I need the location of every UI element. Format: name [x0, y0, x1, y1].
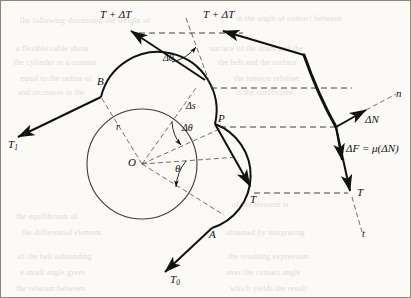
label-delta-s: Δs: [186, 101, 196, 111]
label-delta-theta-center: Δθ: [182, 123, 193, 133]
axis-t-dashed: [352, 197, 362, 232]
freebody-belt-element: [304, 55, 336, 127]
delta-theta-arc-at-center: [172, 122, 181, 145]
label-point-A: A: [209, 229, 216, 240]
radius-to-B: [101, 97, 142, 164]
label-T1: T1: [8, 139, 18, 152]
label-T-plus-dT-left: T + ΔT: [100, 9, 131, 20]
figure-canvas: the following discussion the weight ofin…: [0, 0, 411, 298]
label-theta: θ: [175, 163, 180, 174]
reference-axis-horizontal: [142, 157, 238, 164]
vector-delta-F: [336, 127, 342, 160]
label-axis-t: t: [362, 229, 365, 239]
axis-n-dashed: [366, 94, 396, 110]
dashed-tangent-upper-element: [186, 18, 213, 92]
label-point-P: P: [218, 113, 225, 124]
label-T-freebody: T: [357, 187, 363, 198]
belt-arc-B-to-P: [101, 52, 217, 124]
label-delta-F: ΔF = μ(ΔN): [346, 143, 399, 154]
label-center-O: O: [128, 157, 136, 168]
label-delta-theta-top: Δθ: [163, 53, 174, 63]
label-delta-N: ΔN: [365, 114, 379, 125]
label-point-B: B: [97, 76, 104, 87]
label-T0: T0: [170, 274, 180, 287]
label-radius-r: r: [116, 122, 120, 132]
label-T-plus-dT-right: T + ΔT: [203, 9, 234, 20]
belt-segment-T1: [18, 97, 101, 137]
radius-to-P: [142, 128, 222, 164]
vector-T-plus-dT-freebody: [223, 31, 304, 55]
label-axis-n: n: [396, 88, 402, 99]
label-T-element: T: [250, 194, 256, 205]
belt-segment-T0: [165, 228, 212, 272]
radius-to-A: [142, 164, 224, 215]
vector-delta-N: [336, 110, 366, 127]
